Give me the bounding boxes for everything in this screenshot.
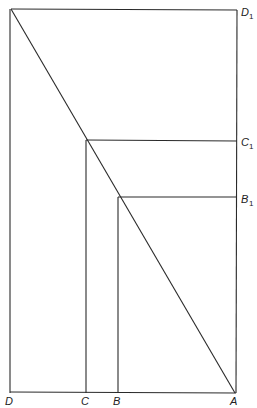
- diagonal-line: [11, 9, 235, 393]
- label-b1-subscript: 1: [249, 199, 254, 208]
- diagram-canvas: D C B A D 1 C 1 B 1: [0, 0, 257, 408]
- label-c1-subscript: 1: [249, 142, 254, 151]
- label-d1-subscript: 1: [249, 12, 254, 21]
- label-d: D: [5, 395, 13, 407]
- right-edge-a-d1: [236, 10, 237, 393]
- label-c1: C: [241, 136, 249, 148]
- label-d1: D: [241, 6, 249, 18]
- label-c: C: [81, 395, 89, 407]
- label-b: B: [113, 395, 120, 407]
- label-b1: B: [241, 193, 248, 205]
- top-edge-d-d1: [11, 9, 237, 10]
- label-a: A: [229, 395, 237, 407]
- bottom-edge-d-a: [10, 392, 236, 393]
- line-c1-horizontal: [86, 140, 237, 141]
